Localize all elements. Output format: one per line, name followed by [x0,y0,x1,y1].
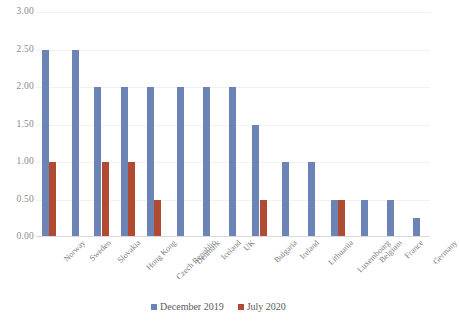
bar-december-2019 [308,162,315,237]
bar-december-2019 [252,125,259,238]
bar-group [62,12,88,237]
plot-area [36,12,430,237]
x-tick-label: France [403,239,425,261]
bar-group [115,12,141,237]
bar-group [167,12,193,237]
bar-group [272,12,298,237]
bar-december-2019 [413,218,420,237]
y-tick-label: 0.00 [2,232,34,242]
x-tick-label: Slovakia [116,239,142,265]
x-tick-label: Denmark [195,239,222,266]
bar-group [141,12,167,237]
bar-december-2019 [94,87,101,237]
bar-december-2019 [121,87,128,237]
x-axis-labels: NorwaySwedenSlovakiaHong KongCzech Repub… [36,239,430,299]
bar-december-2019 [387,200,394,238]
bar-july-2020 [260,200,267,238]
bar-july-2020 [128,162,135,237]
x-tick-label: Ireland [298,239,320,261]
bar-december-2019 [229,87,236,237]
bar-december-2019 [331,200,338,238]
bar-december-2019 [72,50,79,238]
bar-group [377,12,403,237]
bar-july-2020 [338,200,345,238]
y-axis: 3.002.502.001.501.000.500.00 [0,12,34,237]
bar-group [246,12,272,237]
x-tick-label: Iceland [220,239,243,262]
bar-group [36,12,62,237]
x-tick-label: Lithuania [327,239,355,267]
bar-group [325,12,351,237]
y-tick-label: 1.00 [2,157,34,167]
bar-group [89,12,115,237]
bar-group [220,12,246,237]
y-tick-label: 1.50 [2,120,34,130]
legend-item: December 2019 [151,302,224,312]
bar-july-2020 [154,200,161,238]
bar-group [299,12,325,237]
bar-december-2019 [282,162,289,237]
x-tick-label: UK [242,239,256,253]
legend-swatch-icon [151,304,157,310]
bar-group [351,12,377,237]
x-tick-label: Germany [432,239,459,266]
bar-december-2019 [203,87,210,237]
y-tick-label: 2.00 [2,82,34,92]
x-tick-label: Sweden [89,239,113,263]
bar-december-2019 [177,87,184,237]
bar-december-2019 [361,200,368,238]
legend-label: July 2020 [247,302,286,312]
chart-legend: December 2019July 2020 [0,302,437,312]
bar-december-2019 [147,87,154,237]
bars-layer [36,12,430,237]
legend-label: December 2019 [160,302,224,312]
legend-item: July 2020 [238,302,286,312]
y-tick-label: 2.50 [2,45,34,55]
bar-december-2019 [42,50,49,238]
bar-july-2020 [49,162,56,237]
x-axis-line [36,236,430,237]
bar-group [194,12,220,237]
y-tick-label: 0.50 [2,195,34,205]
bar-group [404,12,430,237]
x-tick-label: Bulgaria [274,239,300,265]
x-tick-label: Hong Kong [145,239,178,272]
y-tick-label: 3.00 [2,7,34,17]
bar-july-2020 [102,162,109,237]
legend-swatch-icon [238,304,244,310]
x-tick-label: Norway [63,239,87,263]
